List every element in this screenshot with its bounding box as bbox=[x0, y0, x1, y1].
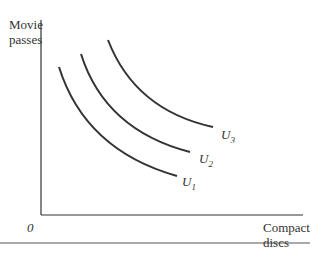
origin-label: 0 bbox=[27, 220, 34, 235]
curve-u1 bbox=[59, 67, 177, 176]
x-axis-label: Compact discs bbox=[263, 220, 310, 250]
diagram: Movie passes Compact discs 0 U1 U2 U3 bbox=[0, 0, 327, 258]
curve-u2 bbox=[81, 54, 190, 152]
curve-label-u3: U3 bbox=[221, 127, 235, 148]
curve-u3 bbox=[108, 40, 213, 127]
y-axis-label: Movie passes bbox=[9, 17, 43, 47]
curve-label-u2: U2 bbox=[199, 151, 213, 172]
curve-label-u1: U1 bbox=[182, 174, 196, 195]
